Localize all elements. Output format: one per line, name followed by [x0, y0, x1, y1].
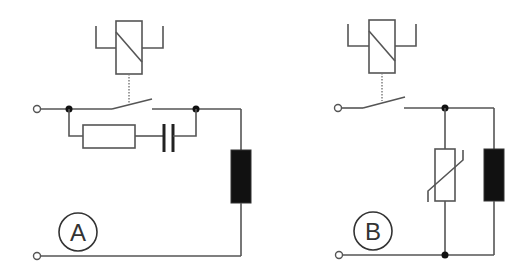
switch-contact-icon: [363, 97, 405, 108]
circuit-a: A: [34, 21, 252, 260]
svg-text:B: B: [365, 218, 381, 245]
circuit-diagram: A: [0, 0, 531, 272]
relay-actuator-icon: [348, 20, 416, 73]
relay-actuator-icon: [96, 21, 163, 74]
resistor-icon: [83, 125, 135, 148]
switch-contact-icon: [112, 99, 152, 109]
label-a: A: [59, 213, 97, 251]
terminal-top-a: [34, 106, 41, 113]
varistor-icon: [428, 149, 463, 202]
svg-text:A: A: [70, 219, 86, 246]
capacitor-icon: [164, 124, 173, 152]
label-b: B: [354, 212, 392, 250]
load-coil-icon: [231, 150, 251, 203]
terminal-bottom-a: [34, 253, 41, 260]
load-coil-icon: [484, 149, 504, 201]
terminal-bottom-b: [336, 252, 343, 259]
junction-dot: [442, 252, 449, 259]
circuit-b: B: [335, 20, 505, 259]
terminal-top-b: [335, 105, 342, 112]
